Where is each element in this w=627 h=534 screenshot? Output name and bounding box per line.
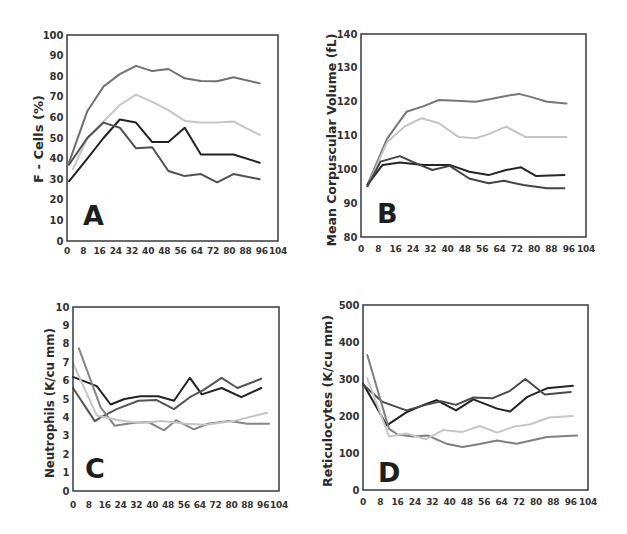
- x-tick-label: 16: [392, 497, 404, 507]
- y-tick-label: 120: [337, 96, 358, 107]
- x-tick-label: 8: [86, 500, 92, 510]
- x-tick-label: 24: [409, 497, 421, 507]
- y-tick-label: 80: [344, 232, 358, 243]
- y-tick-label: 100: [43, 30, 64, 41]
- x-tick-label: 64: [495, 497, 507, 507]
- x-tick-label: 104: [270, 500, 288, 510]
- y-tick-label: 4: [63, 412, 70, 423]
- y-tick-label: 40: [50, 153, 64, 164]
- data-line-s2: [363, 379, 571, 410]
- y-tick-label: 30: [50, 174, 64, 185]
- x-tick-label: 48: [162, 500, 174, 510]
- y-tick-label: 100: [339, 448, 360, 459]
- x-tick-label: 88: [547, 497, 559, 507]
- x-axis-ticks: 081624324048566472808896104: [64, 246, 287, 256]
- data-line-s2: [73, 95, 260, 169]
- x-tick-label: 64: [194, 500, 206, 510]
- x-tick-label: 80: [225, 500, 237, 510]
- y-tick-label: 110: [337, 130, 358, 141]
- y-tick-label: 60: [50, 112, 64, 123]
- x-tick-label: 72: [513, 497, 525, 507]
- x-tick-label: 104: [579, 497, 597, 507]
- y-tick-label: 400: [339, 337, 360, 348]
- data-line-s4: [368, 156, 565, 188]
- x-tick-label: 104: [577, 244, 595, 254]
- y-tick-label: 500: [339, 300, 360, 311]
- x-tick-label: 48: [158, 246, 170, 256]
- x-tick-label: 16: [93, 246, 105, 256]
- x-tick-label: 32: [126, 246, 138, 256]
- y-tick-label: 200: [339, 411, 360, 422]
- x-tick-label: 16: [390, 244, 402, 254]
- x-tick-label: 8: [377, 497, 383, 507]
- data-line-s4: [367, 378, 573, 439]
- data-line-s1: [363, 383, 573, 425]
- y-tick-label: 6: [63, 375, 70, 386]
- y-tick-label: 130: [337, 62, 358, 73]
- x-tick-label: 96: [563, 244, 575, 254]
- x-tick-label: 24: [407, 244, 419, 254]
- x-tick-label: 48: [459, 244, 471, 254]
- x-tick-label: 32: [130, 500, 142, 510]
- panel-letter: D: [378, 457, 400, 488]
- y-axis-ticks: 0100200300400500: [339, 300, 360, 496]
- data-line-s1: [69, 66, 260, 163]
- y-axis-title: Reticulocytes (K/cu mm): [320, 315, 335, 487]
- y-tick-label: 90: [50, 50, 64, 61]
- x-tick-label: 104: [269, 246, 287, 256]
- y-tick-label: 0: [57, 236, 64, 247]
- x-tick-label: 40: [142, 246, 154, 256]
- x-tick-label: 96: [257, 500, 269, 510]
- x-tick-label: 0: [64, 246, 70, 256]
- x-tick-label: 88: [239, 246, 251, 256]
- y-tick-label: 90: [344, 198, 358, 209]
- x-tick-label: 8: [80, 246, 86, 256]
- y-tick-label: 20: [50, 194, 64, 205]
- y-tick-label: 1: [63, 467, 70, 478]
- y-tick-label: 50: [50, 133, 64, 144]
- y-tick-label: 7: [63, 357, 70, 368]
- x-tick-label: 48: [461, 497, 473, 507]
- x-tick-label: 88: [241, 500, 253, 510]
- y-tick-label: 300: [339, 374, 360, 385]
- x-axis-ticks: 081624324048566472808896104: [358, 244, 595, 254]
- x-tick-label: 40: [441, 244, 453, 254]
- panel-letter: B: [377, 198, 398, 229]
- x-tick-label: 96: [256, 246, 268, 256]
- y-tick-label: 8: [63, 338, 70, 349]
- y-tick-label: 80: [50, 71, 64, 82]
- x-tick-label: 40: [443, 497, 455, 507]
- x-tick-label: 32: [424, 244, 436, 254]
- x-tick-label: 56: [175, 246, 187, 256]
- x-tick-label: 40: [146, 500, 158, 510]
- x-tick-label: 56: [476, 244, 488, 254]
- x-tick-label: 56: [178, 500, 190, 510]
- x-tick-label: 80: [530, 497, 542, 507]
- x-tick-label: 64: [191, 246, 203, 256]
- x-tick-label: 88: [545, 244, 557, 254]
- x-tick-label: 24: [114, 500, 126, 510]
- x-tick-label: 0: [70, 500, 76, 510]
- x-tick-label: 64: [493, 244, 505, 254]
- data-line-s3: [368, 163, 565, 185]
- y-tick-label: 0: [63, 486, 70, 497]
- panel-a: F - Cells (%) A 010203040506070809010008…: [31, 30, 287, 257]
- y-axis-title: F - Cells (%): [31, 95, 46, 183]
- panel-b: Mean Corpuscular Volume (fL) B 809010011…: [324, 29, 595, 255]
- y-axis-ticks: 012345678910: [56, 302, 70, 497]
- x-tick-label: 72: [207, 246, 219, 256]
- x-tick-label: 8: [375, 244, 381, 254]
- figure: F - Cells (%) A 010203040506070809010008…: [0, 0, 627, 534]
- panel-letter: C: [85, 453, 105, 484]
- x-tick-label: 0: [358, 244, 364, 254]
- x-tick-label: 80: [528, 244, 540, 254]
- y-tick-label: 10: [50, 215, 64, 226]
- panel-letter: A: [83, 200, 104, 231]
- x-tick-label: 24: [110, 246, 122, 256]
- x-tick-label: 16: [99, 500, 111, 510]
- y-tick-label: 2: [63, 449, 70, 460]
- y-tick-label: 0: [353, 485, 360, 496]
- x-tick-label: 72: [210, 500, 222, 510]
- x-tick-label: 80: [223, 246, 235, 256]
- y-tick-label: 100: [337, 164, 358, 175]
